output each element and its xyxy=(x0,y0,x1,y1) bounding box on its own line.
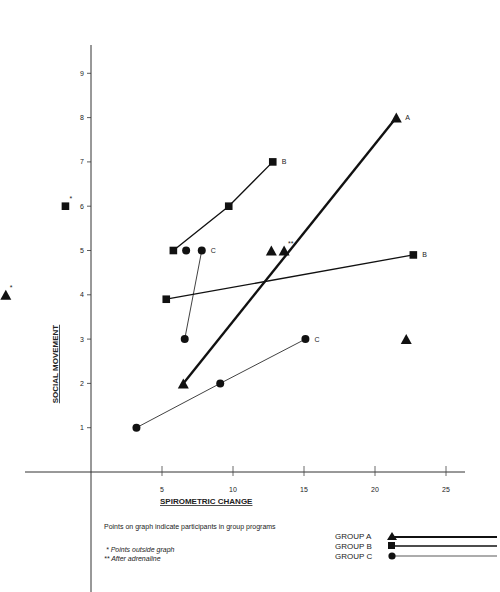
circle-marker xyxy=(181,335,189,343)
legend-label: GROUP B xyxy=(335,542,385,551)
square-marker xyxy=(162,295,170,303)
point-annotation: * xyxy=(69,195,72,202)
triangle-icon xyxy=(385,531,500,541)
y-tick-label: 6 xyxy=(80,203,84,210)
x-axis-title: SPIROMETRIC CHANGE xyxy=(160,497,253,506)
square-marker xyxy=(225,202,233,210)
note-outside-graph: * Points outside graph xyxy=(106,546,175,553)
x-tick-label: 10 xyxy=(229,486,237,493)
y-tick-label: 9 xyxy=(80,70,84,77)
series-line xyxy=(185,251,202,340)
note-participants: Points on graph indicate participants in… xyxy=(104,523,276,530)
x-tick-label: 25 xyxy=(442,486,450,493)
legend-group-c: GROUP C xyxy=(335,551,500,561)
point-annotation: C xyxy=(314,336,319,343)
point-annotation: * xyxy=(10,284,13,291)
legend: GROUP A GROUP B GROUP C xyxy=(335,531,500,561)
square-marker xyxy=(170,247,178,255)
note-after-adrenaline: ** After adrenaline xyxy=(104,555,161,562)
y-tick-label: 1 xyxy=(80,424,84,431)
legend-group-a: GROUP A xyxy=(335,531,500,541)
legend-label: GROUP C xyxy=(335,552,385,561)
circle-marker xyxy=(216,379,224,387)
y-tick-label: 8 xyxy=(80,114,84,121)
y-tick-label: 5 xyxy=(80,247,84,254)
legend-group-b: GROUP B xyxy=(335,541,500,551)
square-marker xyxy=(62,202,70,210)
triangle-marker xyxy=(266,246,277,256)
circle-marker xyxy=(182,247,190,255)
y-axis-title: SOCIAL MOVEMENT xyxy=(51,325,60,404)
circle-icon xyxy=(385,551,500,561)
y-tick-label: 2 xyxy=(80,380,84,387)
point-annotation: B xyxy=(422,251,427,258)
y-tick-label: 4 xyxy=(80,291,84,298)
triangle-marker xyxy=(401,334,412,344)
x-tick-label: 5 xyxy=(160,486,164,493)
y-tick-label: 3 xyxy=(80,336,84,343)
point-annotation: C xyxy=(211,247,216,254)
point-annotation: ** xyxy=(288,240,294,247)
circle-marker xyxy=(198,247,206,255)
circle-marker xyxy=(301,335,309,343)
point-annotation: A xyxy=(405,114,410,121)
x-tick-label: 20 xyxy=(371,486,379,493)
y-tick-label: 7 xyxy=(80,158,84,165)
legend-label: GROUP A xyxy=(335,532,385,541)
series-line xyxy=(173,162,272,251)
square-marker xyxy=(410,251,418,259)
triangle-marker xyxy=(0,290,11,300)
x-tick-label: 15 xyxy=(300,486,308,493)
point-annotation: B xyxy=(282,158,287,165)
circle-marker xyxy=(132,424,140,432)
square-marker xyxy=(269,158,277,166)
triangle-marker xyxy=(391,113,402,123)
triangle-marker xyxy=(279,246,290,256)
series-line xyxy=(166,255,413,299)
square-icon xyxy=(385,541,500,551)
